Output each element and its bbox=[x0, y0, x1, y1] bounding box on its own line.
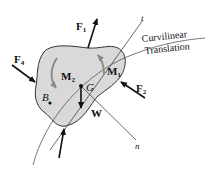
label-g: G bbox=[86, 81, 94, 93]
label-n: n bbox=[135, 141, 140, 151]
label-f4: F4 bbox=[14, 53, 25, 67]
force-f1-arrow bbox=[88, 19, 97, 48]
label-t: t bbox=[141, 13, 144, 23]
label-f1: F1 bbox=[76, 20, 87, 34]
point-g bbox=[79, 84, 83, 88]
label-f2: F2 bbox=[136, 82, 147, 96]
curvilinear-translation-diagram: F1 F4 F2 M2 M1 G B W t n Curvilinear Tra… bbox=[0, 0, 221, 179]
label-w: W bbox=[91, 107, 102, 119]
label-b: B bbox=[42, 91, 49, 103]
point-b bbox=[48, 101, 51, 104]
n-axis bbox=[81, 86, 136, 140]
force-f4-arrow bbox=[12, 65, 35, 82]
